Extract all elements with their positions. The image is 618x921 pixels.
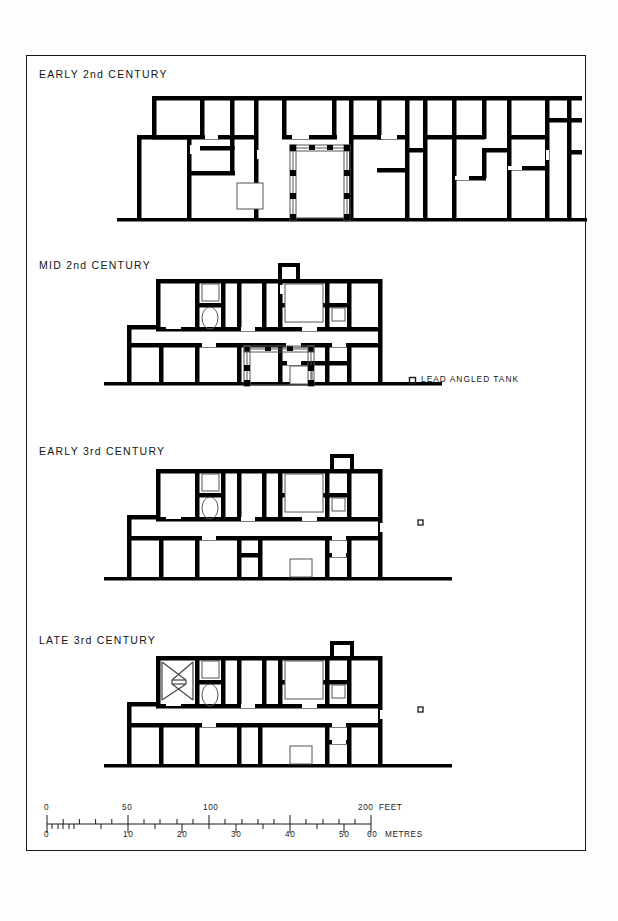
walls-early-3rd [104, 454, 452, 581]
scale-label-feet-100: 100 [203, 803, 218, 812]
site-plan-mid-2nd [82, 251, 442, 396]
site-plan-early-3rd [82, 441, 452, 591]
walls-late-3rd [104, 641, 452, 768]
scale-label-metres-10: 10 [123, 830, 133, 839]
site-plan-early-2nd [87, 88, 587, 258]
figure-frame: EARLY 2nd CENTURY [26, 55, 586, 851]
scale-label-feet-0: 0 [44, 803, 49, 812]
walls-early-2nd [117, 96, 587, 222]
lead-tank-marker-late-3rd [418, 707, 423, 712]
scale-ticks-feet [47, 815, 371, 824]
scale-label-metres-20: 20 [177, 830, 187, 839]
scale-ticks-metres [47, 824, 371, 833]
scale-label-metres-40: 40 [285, 830, 295, 839]
legend-lead-tank-symbol [408, 376, 418, 386]
scale-label-metres-50: 50 [339, 830, 349, 839]
scale-label-metres-30: 30 [231, 830, 241, 839]
scale-unit-metres: METRES [385, 830, 423, 839]
inner-room-early-2nd [237, 183, 263, 209]
scale-label-feet-200: 200 [358, 803, 373, 812]
walls-mid-2nd [104, 263, 442, 386]
cross-vault-room-late-3rd [162, 662, 193, 700]
colonnade-court-early-2nd [290, 145, 350, 221]
site-plan-late-3rd [82, 628, 452, 778]
scale-unit-feet: FEET [379, 803, 402, 812]
scale-label-feet-50: 50 [122, 803, 132, 812]
figure-plate: EARLY 2nd CENTURY [0, 0, 618, 921]
legend-label: LEAD ANGLED TANK [421, 374, 519, 384]
scale-label-metres-60: 60 [367, 830, 377, 839]
lead-tank-marker-early-3rd [418, 520, 423, 525]
panel-title-early-2nd: EARLY 2nd CENTURY [39, 68, 168, 80]
scale-label-metres-0: 0 [44, 830, 49, 839]
